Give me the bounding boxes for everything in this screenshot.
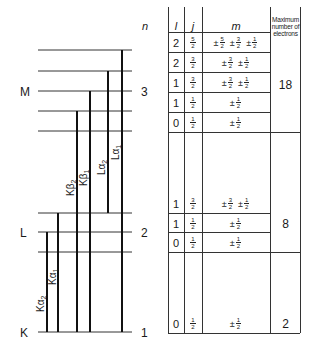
fraction: 12 <box>236 236 241 249</box>
fraction: 32 <box>236 36 241 49</box>
cell-m: ±12 <box>202 113 270 132</box>
n-value-2: 2 <box>141 226 148 240</box>
cell-l: 0 <box>168 233 184 252</box>
label-k-beta-1: Kβ1 <box>78 170 90 186</box>
cell-j: 12 <box>184 314 202 333</box>
cell-j: 32 <box>184 73 202 92</box>
fraction: 32 <box>190 197 195 210</box>
cell-m: ±12 <box>202 214 270 233</box>
m-shell-levels <box>38 50 132 131</box>
l-shell-levels <box>38 213 132 252</box>
fraction: 12 <box>236 116 241 129</box>
cell-j: 12 <box>184 233 202 252</box>
fraction: 32 <box>190 56 195 69</box>
fraction: 12 <box>236 96 241 109</box>
fraction: 12 <box>190 217 195 230</box>
max-electrons-k-shell: 2 <box>270 315 301 333</box>
cell-j: 12 <box>184 113 202 132</box>
shell-label-m: M <box>20 85 30 99</box>
fraction: 12 <box>236 217 241 230</box>
cell-l: 0 <box>168 113 184 132</box>
max-electrons-l-shell: 8 <box>270 214 301 234</box>
label-k-alpha-2: Kα2 <box>35 296 47 312</box>
fraction: 32 <box>228 56 233 69</box>
cell-j: 32 <box>184 53 202 72</box>
cell-j: 12 <box>184 214 202 233</box>
fraction: 32 <box>228 76 233 89</box>
n-value-1: 1 <box>141 326 148 340</box>
fraction: 12 <box>244 56 249 69</box>
cell-m: ±12 <box>202 233 270 252</box>
fraction: 12 <box>252 36 257 49</box>
fraction: 12 <box>244 76 249 89</box>
cell-l: 2 <box>168 53 184 72</box>
cell-l: 1 <box>168 214 184 233</box>
fraction: 32 <box>228 197 233 210</box>
n-axis-label: n <box>142 20 148 32</box>
label-l-alpha-2: Lα2 <box>96 160 108 175</box>
fraction: 12 <box>190 116 195 129</box>
header-l: l <box>168 18 184 33</box>
cell-m: ±52±32±12 <box>202 33 270 52</box>
cell-m: ±12 <box>202 93 270 112</box>
fraction: 52 <box>190 36 195 49</box>
header-j: j <box>184 18 202 33</box>
fraction: 12 <box>244 197 249 210</box>
cell-l: 1 <box>168 93 184 112</box>
label-l-alpha-1: Lα1 <box>110 145 122 160</box>
cell-m: ±12 <box>202 314 270 333</box>
cell-l: 1 <box>168 194 184 213</box>
fraction: 32 <box>190 76 195 89</box>
fraction: 12 <box>190 317 195 330</box>
header-max-electrons: Maximum number of electrons <box>270 9 301 43</box>
header-m: m <box>202 18 270 33</box>
fraction: 12 <box>190 96 195 109</box>
max-electrons-m-shell: 18 <box>270 75 301 95</box>
fraction: 12 <box>190 236 195 249</box>
cell-j: 12 <box>184 93 202 112</box>
cell-j: 52 <box>184 33 202 52</box>
energy-level-diagram: n M 3 L 2 K 1 Kα2 Kα1 Kβ2 Kβ1 Lα2 Lα <box>0 0 320 350</box>
cell-m: ±32±12 <box>202 53 270 72</box>
cell-l: 0 <box>168 314 184 333</box>
cell-j: 32 <box>184 194 202 213</box>
label-k-beta-2: Kβ2 <box>65 180 77 196</box>
cell-l: 1 <box>168 73 184 92</box>
cell-m: ±32±12 <box>202 194 270 213</box>
shell-label-l: L <box>20 226 27 240</box>
fraction: 52 <box>220 36 225 49</box>
fraction: 12 <box>236 317 241 330</box>
cell-l: 2 <box>168 33 184 52</box>
shell-label-k: K <box>20 326 28 340</box>
label-k-alpha-1: Kα1 <box>47 269 59 285</box>
n-value-3: 3 <box>141 85 148 99</box>
cell-m: ±32±12 <box>202 73 270 92</box>
